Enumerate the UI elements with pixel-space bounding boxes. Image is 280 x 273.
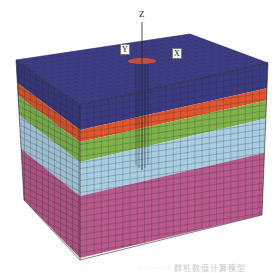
- layered-soil-mesh: [0, 0, 280, 273]
- mesh-figure: Z Y X · · · · · 群桩数值计算模型: [0, 0, 280, 273]
- x-axis-label: X: [172, 48, 182, 59]
- y-axis-label: Y: [120, 44, 130, 55]
- figure-caption: · · · · · 群桩数值计算模型: [140, 262, 246, 273]
- z-axis-label: Z: [139, 10, 145, 19]
